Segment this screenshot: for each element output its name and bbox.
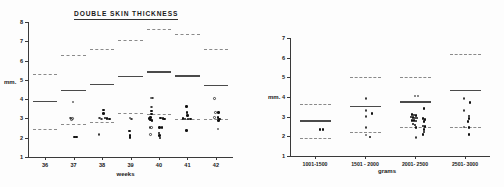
x-tick-label: 42 xyxy=(204,162,228,168)
reference-band-mean xyxy=(350,106,381,107)
data-point xyxy=(151,97,154,100)
reference-band-lower xyxy=(204,119,228,120)
data-point xyxy=(150,110,153,113)
y-tick-label: 5 xyxy=(11,77,23,83)
x-tick-mark xyxy=(465,156,466,159)
y-tick-mark xyxy=(287,136,290,137)
y-axis-line-weeks xyxy=(28,22,29,157)
data-point xyxy=(416,117,419,120)
data-point xyxy=(469,101,472,104)
data-point xyxy=(415,126,418,129)
y-tick-mark xyxy=(287,97,290,98)
data-point xyxy=(365,134,368,137)
plot-area-weeks: 12345678 36373839404142 xyxy=(28,22,233,157)
reference-band-upper xyxy=(350,77,381,78)
data-point xyxy=(423,120,426,123)
reference-band-mean xyxy=(118,76,142,77)
x-tick-mark xyxy=(45,157,46,160)
data-point xyxy=(70,118,73,121)
y-tick-label: 4 xyxy=(11,96,23,102)
data-point xyxy=(422,133,425,136)
y-tick-mark xyxy=(25,61,28,62)
y-tick-label: 8 xyxy=(11,19,23,25)
data-point xyxy=(75,136,78,139)
data-point xyxy=(463,109,466,112)
reference-band-mean xyxy=(450,90,481,91)
y-tick-label: 2 xyxy=(11,135,23,141)
y-tick-mark xyxy=(25,138,28,139)
data-point xyxy=(150,126,153,129)
x-axis-name-grams: grams xyxy=(378,168,396,174)
data-point xyxy=(150,106,153,109)
x-axis-name-weeks: weeks xyxy=(117,171,135,177)
x-tick-mark xyxy=(415,156,416,159)
data-point xyxy=(468,126,471,129)
y-tick-mark xyxy=(287,156,290,157)
x-tick-mark xyxy=(74,157,75,160)
data-point xyxy=(213,97,216,100)
y-tick-label: 1 xyxy=(11,154,23,160)
y-tick-mark xyxy=(25,22,28,23)
y-tick-mark xyxy=(287,117,290,118)
data-point xyxy=(149,133,152,136)
x-tick-mark xyxy=(159,157,160,160)
x-tick-label: 37 xyxy=(62,162,86,168)
reference-band-upper xyxy=(400,77,431,78)
data-point xyxy=(102,112,105,115)
x-tick-mark xyxy=(315,156,316,159)
data-point xyxy=(161,126,164,129)
data-point xyxy=(365,126,368,129)
y-axis-line-grams xyxy=(290,38,291,156)
x-tick-label: 36 xyxy=(33,162,57,168)
data-point xyxy=(100,118,103,121)
y-tick-label: 3 xyxy=(273,114,285,120)
data-point xyxy=(159,137,162,140)
y-tick-label: 2 xyxy=(273,133,285,139)
data-point xyxy=(423,107,426,110)
x-tick-mark xyxy=(187,157,188,160)
reference-band-mean xyxy=(61,90,85,91)
data-point xyxy=(414,95,417,98)
x-tick-label: 1501 - 2000 xyxy=(340,161,390,167)
data-point xyxy=(130,118,133,121)
data-point xyxy=(467,120,470,123)
data-point xyxy=(365,109,368,112)
data-point xyxy=(185,105,188,108)
data-point xyxy=(214,111,217,114)
data-point xyxy=(186,114,189,117)
data-point xyxy=(369,136,372,139)
chart-title-weeks: DOUBLE SKIN THICKNESS xyxy=(74,10,178,20)
y-tick-label: 7 xyxy=(11,38,23,44)
data-point xyxy=(463,97,466,100)
plot-area-grams: 1234567 1001-15001501 - 20002001- 250025… xyxy=(290,38,490,156)
data-point xyxy=(417,95,420,98)
x-tick-label: 40 xyxy=(147,162,171,168)
reference-band-upper xyxy=(90,49,114,50)
reference-band-upper xyxy=(118,40,142,41)
y-tick-label: 1 xyxy=(273,153,285,159)
reference-band-mean xyxy=(33,101,57,102)
y-tick-mark xyxy=(287,77,290,78)
chart-panel-grams: DOUBLE SKIN THICKNESS mm. 1234567 1001-1… xyxy=(252,0,504,187)
data-point xyxy=(163,118,166,121)
y-tick-label: 6 xyxy=(273,55,285,61)
y-tick-mark xyxy=(287,58,290,59)
data-point xyxy=(371,112,374,115)
x-tick-label: 41 xyxy=(175,162,199,168)
y-tick-label: 7 xyxy=(273,35,285,41)
data-point xyxy=(415,120,418,123)
data-point xyxy=(365,115,368,118)
y-tick-label: 5 xyxy=(273,74,285,80)
x-tick-mark xyxy=(131,157,132,160)
y-tick-mark xyxy=(25,80,28,81)
reference-band-lower xyxy=(90,122,114,123)
reference-band-mean xyxy=(147,71,171,72)
x-tick-label: 39 xyxy=(119,162,143,168)
y-tick-mark xyxy=(287,38,290,39)
chart-panel-weeks: DOUBLE SKIN THICKNESS mm. 12345678 36373… xyxy=(0,0,252,187)
x-tick-label: 1001-1500 xyxy=(290,161,340,167)
reference-band-mean xyxy=(300,120,331,121)
x-axis-line-grams xyxy=(290,156,490,157)
data-point xyxy=(72,101,75,104)
data-point xyxy=(217,111,220,114)
